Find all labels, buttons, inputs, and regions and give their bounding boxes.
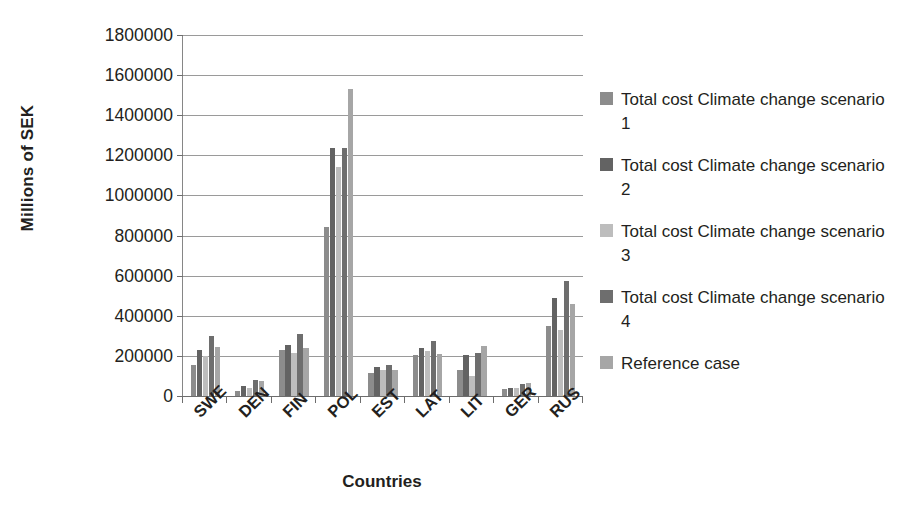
y-axis-tick-label: 1400000 (48, 105, 173, 125)
bar-group-fin (272, 35, 316, 396)
x-axis-tick-mark (449, 396, 450, 403)
bar-chart: Millions of SEK 180000016000001400000120… (0, 0, 920, 526)
bar (413, 355, 418, 396)
bar (475, 353, 480, 396)
bar (348, 89, 353, 396)
bar-group-pol (316, 35, 360, 396)
legend-item[interactable]: Total cost Climate change scenario 3 (600, 220, 910, 268)
bar-group-lat (405, 35, 449, 396)
bars-layer (183, 35, 583, 396)
bar (570, 304, 575, 396)
bar (191, 365, 196, 396)
bar-group-lit (450, 35, 494, 396)
y-axis-tick-label: 1800000 (48, 25, 173, 45)
legend-label: Total cost Climate change scenario 1 (621, 88, 891, 136)
bar (564, 281, 569, 396)
bar (546, 326, 551, 396)
legend-swatch-icon (600, 356, 613, 369)
legend-swatch-icon (600, 158, 613, 171)
y-axis-tick-label: 600000 (48, 266, 173, 286)
y-axis-tick-label: 1000000 (48, 185, 173, 205)
bar (457, 370, 462, 396)
x-axis-title: Countries (182, 472, 582, 492)
chart-legend: Total cost Climate change scenario 1Tota… (600, 88, 910, 394)
x-axis-tick-labels: SWEDENFINPOLESTLATLITGERRUS (182, 404, 602, 464)
legend-item[interactable]: Total cost Climate change scenario 4 (600, 286, 910, 334)
y-axis-tick-label: 1600000 (48, 65, 173, 85)
bar (342, 148, 347, 396)
bar (336, 167, 341, 396)
y-axis-tick-label: 800000 (48, 226, 173, 246)
plot-area (182, 35, 583, 396)
bar-group-swe (183, 35, 227, 396)
bar (502, 389, 507, 396)
bar (558, 330, 563, 396)
bar (197, 350, 202, 396)
x-axis-tick-mark (182, 396, 183, 403)
legend-swatch-icon (600, 290, 613, 303)
x-axis-tick-mark (404, 396, 405, 403)
bar (368, 373, 373, 396)
legend-label: Total cost Climate change scenario 4 (621, 286, 891, 334)
bar (303, 348, 308, 396)
y-axis-tick-label: 0 (48, 386, 173, 406)
bar-group-rus (539, 35, 583, 396)
legend-swatch-icon (600, 92, 613, 105)
bar (324, 227, 329, 396)
bar-group-est (361, 35, 405, 396)
legend-label: Reference case (621, 352, 740, 376)
bar-group-ger (494, 35, 538, 396)
legend-swatch-icon (600, 224, 613, 237)
bar (330, 148, 335, 396)
y-axis-tick-label: 400000 (48, 306, 173, 326)
legend-item[interactable]: Total cost Climate change scenario 2 (600, 154, 910, 202)
x-axis-tick-mark (493, 396, 494, 403)
bar (241, 386, 246, 396)
y-axis-title: Millions of SEK (18, 78, 38, 258)
bar (285, 345, 290, 396)
bar (374, 367, 379, 396)
y-axis-tick-label: 1200000 (48, 145, 173, 165)
x-axis-tick-mark (315, 396, 316, 403)
legend-label: Total cost Climate change scenario 3 (621, 220, 891, 268)
bar (279, 350, 284, 396)
bar (297, 334, 302, 396)
legend-item[interactable]: Reference case (600, 352, 910, 376)
bar (463, 355, 468, 396)
legend-item[interactable]: Total cost Climate change scenario 1 (600, 88, 910, 136)
y-axis-tick-label: 200000 (48, 346, 173, 366)
bar-group-den (227, 35, 271, 396)
bar (481, 346, 486, 396)
y-axis-tick-labels: 1800000160000014000001200000100000080000… (48, 25, 173, 406)
legend-label: Total cost Climate change scenario 2 (621, 154, 891, 202)
bar (419, 348, 424, 396)
bar (552, 298, 557, 396)
bar (508, 388, 513, 396)
